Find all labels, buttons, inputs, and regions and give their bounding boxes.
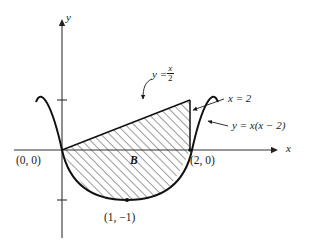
x-intercept-point-label: (2, 0) [190, 155, 215, 167]
point-vertex [125, 198, 129, 202]
point-x-intercept [188, 148, 192, 152]
fraction-x-over-2: x2 [167, 64, 174, 84]
region-label-B: B [130, 155, 138, 167]
leader-line-y-equals-x-over-2 [143, 79, 152, 99]
parabola-equation-label: y = x(x − 2) [232, 120, 285, 131]
vertex-point-label: (1, −1) [104, 212, 135, 224]
line-equation-lhs: y = [152, 68, 167, 80]
fraction-denominator: 2 [167, 74, 174, 83]
x-axis-label: x [286, 143, 291, 154]
y-axis-label: y [66, 12, 71, 23]
vertical-line-equation-label: x = 2 [228, 93, 251, 104]
figure-container: x y (0, 0) (2, 0) (1, −1) B y =x2 x = 2 … [0, 0, 310, 250]
line-equation-label: y =x2 [152, 64, 174, 84]
origin-point-label: (0, 0) [16, 155, 41, 167]
leader-line-parabola [208, 121, 228, 126]
